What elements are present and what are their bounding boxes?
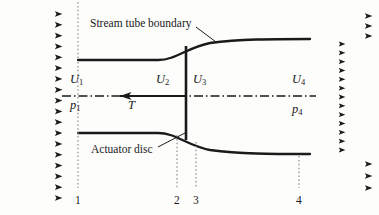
station-number-4: 4 xyxy=(296,194,302,206)
station-number-1: 1 xyxy=(75,194,81,206)
stream-tube-boundary-label: Stream tube boundary xyxy=(90,17,192,29)
actuator-disc-label: Actuator disc xyxy=(91,143,153,155)
stream-tube-leader-line xyxy=(196,27,216,42)
pressure-label-p4: p4 xyxy=(292,102,303,117)
stream-tube-upper-boundary xyxy=(78,39,310,60)
outlet-flow-arrows xyxy=(318,16,372,188)
velocity-label-U4: U4 xyxy=(292,72,305,87)
inlet-flow-arrows xyxy=(8,14,62,198)
station-number-2: 2 xyxy=(174,194,180,206)
velocity-label-U3: U3 xyxy=(193,72,206,87)
actuator-disc-diagram: Stream tube boundary Actuator disc U1U2U… xyxy=(0,0,379,215)
velocity-label-U2: U2 xyxy=(156,72,169,87)
velocity-label-U1: U1 xyxy=(70,72,83,87)
thrust-label-T: T xyxy=(128,98,135,113)
diagram-canvas xyxy=(0,0,379,215)
station-markers xyxy=(78,2,299,188)
pressure-label-p1: p1 xyxy=(70,98,81,113)
station-number-3: 3 xyxy=(193,194,199,206)
